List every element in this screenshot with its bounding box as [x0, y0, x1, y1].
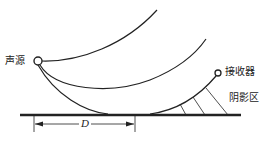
sound-ray-ground	[38, 65, 108, 114]
label-shadow-zone: 阴影区	[229, 93, 259, 103]
shadow-hatch-line	[193, 97, 205, 115]
label-receiver: 接收器	[225, 67, 255, 77]
shadow-hatch-line	[180, 104, 186, 115]
shadow-hatch-line	[206, 88, 228, 115]
sound-ray-upper	[42, 10, 157, 61]
sound-ray-middle	[40, 39, 206, 88]
label-source: 声源	[5, 56, 25, 66]
sound-source-marker	[34, 57, 42, 65]
receiver-marker	[215, 70, 221, 76]
dimension-arrow-right-icon	[126, 122, 134, 127]
dimension-arrow-left-icon	[35, 122, 43, 127]
shadow-boundary-ray	[150, 76, 216, 114]
label-distance: D	[79, 118, 91, 129]
